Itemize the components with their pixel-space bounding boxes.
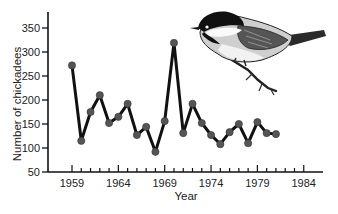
x-axis-title: Year <box>174 190 197 202</box>
data-point <box>263 130 270 137</box>
data-point <box>124 100 131 107</box>
x-axis-ticks: 195919641969197419791984 <box>60 165 316 189</box>
y-tick-label: 250 <box>22 70 40 82</box>
data-point <box>254 118 261 125</box>
x-tick-label: 1984 <box>292 177 316 189</box>
data-point <box>226 129 233 136</box>
data-point <box>143 123 150 130</box>
data-point <box>133 131 140 138</box>
data-point <box>189 100 196 107</box>
data-point <box>272 130 279 137</box>
chickadee-line-chart: 50100150200250300350 1959196419691974197… <box>0 0 338 214</box>
y-axis-ticks: 50100150200250300350 <box>22 22 48 178</box>
y-tick-label: 350 <box>22 22 40 34</box>
branch <box>232 60 276 91</box>
data-point <box>198 119 205 126</box>
data-point <box>152 148 159 155</box>
x-tick-label: 1959 <box>60 177 84 189</box>
bird-beak <box>190 27 199 30</box>
y-tick-label: 50 <box>28 166 40 178</box>
x-tick-label: 1979 <box>245 177 269 189</box>
data-point <box>115 113 122 120</box>
x-tick-label: 1964 <box>106 177 130 189</box>
chickadee-illustration <box>190 12 326 95</box>
data-point <box>180 130 187 137</box>
data-point <box>87 108 94 115</box>
data-point <box>217 141 224 148</box>
y-tick-label: 200 <box>22 94 40 106</box>
data-point <box>170 39 177 46</box>
data-point <box>235 120 242 127</box>
data-point <box>207 131 214 138</box>
y-tick-label: 100 <box>22 142 40 154</box>
x-tick-label: 1974 <box>199 177 223 189</box>
y-axis-title: Number of chickadees <box>11 47 23 162</box>
data-point <box>78 137 85 144</box>
y-tick-label: 300 <box>22 46 40 58</box>
x-tick-label: 1969 <box>152 177 176 189</box>
data-point <box>105 119 112 126</box>
data-point <box>96 92 103 99</box>
y-tick-label: 150 <box>22 118 40 130</box>
data-point <box>161 118 168 125</box>
data-point <box>68 62 75 69</box>
data-point <box>245 140 252 147</box>
